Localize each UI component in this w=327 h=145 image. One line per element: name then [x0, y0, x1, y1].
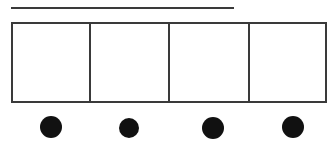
dot-3 — [202, 117, 224, 139]
diagram-svg — [0, 0, 327, 145]
dot-4 — [282, 116, 304, 138]
dot-2 — [119, 118, 139, 138]
dot-1 — [40, 116, 62, 138]
diagram-canvas — [0, 0, 327, 145]
